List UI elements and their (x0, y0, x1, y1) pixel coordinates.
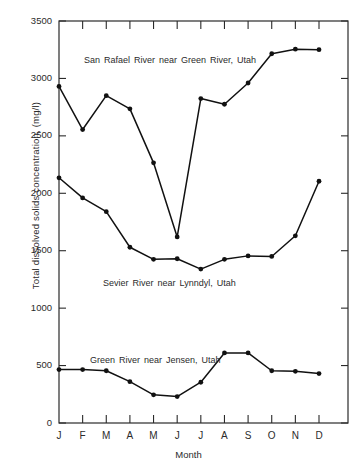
x-tick-label: J (168, 430, 186, 441)
series-label-2: Green River near Jensen, Utah (90, 355, 221, 365)
chart-figure: Total dissolved solids concentration, (m… (0, 0, 359, 469)
data-point (317, 371, 322, 376)
x-tick-label: J (50, 430, 68, 441)
data-point (293, 47, 298, 52)
data-point (293, 233, 298, 238)
data-point (293, 369, 298, 374)
x-axis-title-text: Month (157, 449, 201, 460)
data-point (57, 84, 62, 89)
data-point (80, 195, 85, 200)
y-tick-label: 0 (8, 417, 52, 428)
y-tick-label: 1500 (8, 244, 52, 255)
series-line-1 (59, 178, 319, 269)
data-point (104, 209, 109, 214)
data-point (175, 235, 180, 240)
data-point (104, 93, 109, 98)
data-point (269, 51, 274, 56)
line-chart-plot (0, 0, 359, 469)
x-tick-label: O (263, 430, 281, 441)
series-label-1: Sevier River near Lynndyl, Utah (103, 278, 236, 288)
data-point (128, 245, 133, 250)
y-tick-label: 1000 (8, 302, 52, 313)
data-point (151, 160, 156, 165)
data-point (57, 175, 62, 180)
series-line-0 (59, 49, 319, 237)
data-point (198, 96, 203, 101)
data-point (104, 368, 109, 373)
data-point (198, 267, 203, 272)
data-point (80, 127, 85, 132)
x-tick-label: S (239, 430, 257, 441)
data-point (175, 394, 180, 399)
data-point (246, 253, 251, 258)
data-point (317, 179, 322, 184)
data-point (57, 367, 62, 372)
data-point (80, 367, 85, 372)
data-point (198, 380, 203, 385)
data-point (175, 256, 180, 261)
series-label-0: San Rafael River near Green River, Utah (84, 55, 256, 65)
x-tick-label: M (97, 430, 115, 441)
x-tick-label: N (286, 430, 304, 441)
data-point (317, 47, 322, 52)
x-tick-label: A (121, 430, 139, 441)
x-tick-label: M (145, 430, 163, 441)
data-point (222, 257, 227, 262)
y-tick-label: 3500 (8, 15, 52, 26)
x-tick-label: D (310, 430, 328, 441)
data-point (128, 379, 133, 384)
data-point (246, 351, 251, 356)
data-point (222, 102, 227, 107)
x-tick-label: A (215, 430, 233, 441)
data-point (246, 81, 251, 86)
data-point (151, 392, 156, 397)
x-axis-title: Month (0, 449, 359, 460)
y-tick-label: 3000 (8, 72, 52, 83)
y-tick-label: 2500 (8, 129, 52, 140)
data-point (222, 351, 227, 356)
y-tick-label: 2000 (8, 187, 52, 198)
x-tick-label: J (192, 430, 210, 441)
y-tick-label: 500 (8, 359, 52, 370)
data-point (128, 106, 133, 111)
data-point (151, 257, 156, 262)
x-tick-label: F (74, 430, 92, 441)
data-point (269, 254, 274, 259)
data-point (269, 368, 274, 373)
